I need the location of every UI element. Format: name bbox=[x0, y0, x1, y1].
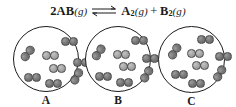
reaction-vessel-b bbox=[85, 26, 151, 92]
molecule bbox=[45, 79, 62, 88]
atom-sphere bbox=[53, 79, 62, 88]
atom-sphere bbox=[223, 52, 232, 61]
atom-sphere bbox=[124, 78, 133, 87]
molecule bbox=[24, 73, 41, 82]
atom-sphere bbox=[50, 51, 59, 60]
molecule bbox=[188, 79, 205, 88]
molecule bbox=[212, 64, 228, 83]
atom-sphere bbox=[196, 79, 205, 88]
molecule bbox=[192, 61, 209, 70]
molecule bbox=[95, 72, 112, 81]
equation-product2-state: (g) bbox=[173, 5, 186, 17]
atom-sphere bbox=[32, 73, 41, 82]
atom-sphere bbox=[179, 70, 188, 79]
atom-sphere bbox=[103, 72, 112, 81]
molecule bbox=[42, 51, 59, 60]
molecule bbox=[197, 35, 214, 44]
equation-product2-species: B bbox=[160, 4, 168, 19]
atom-sphere bbox=[205, 35, 214, 44]
molecule bbox=[131, 36, 148, 45]
equation-reactant-species: AB bbox=[57, 4, 75, 19]
atom-sphere bbox=[139, 36, 148, 45]
molecule bbox=[187, 49, 204, 58]
reaction-vessel-a bbox=[13, 26, 79, 92]
flask-label-c: C bbox=[182, 95, 202, 107]
flask-label-b: B bbox=[108, 94, 128, 106]
molecule bbox=[142, 54, 159, 63]
molecule bbox=[19, 44, 36, 63]
molecule bbox=[171, 70, 188, 79]
atom-sphere bbox=[121, 50, 130, 59]
molecule bbox=[61, 37, 78, 46]
equation-reactant-state: (g) bbox=[74, 5, 87, 17]
equation-product2-subscript: 2 bbox=[168, 9, 172, 18]
equation-product1-species: A bbox=[121, 4, 130, 19]
molecule bbox=[116, 78, 133, 87]
molecule bbox=[69, 67, 84, 86]
equation-product1-state: (g) bbox=[135, 5, 148, 17]
equilibrium-arrow-icon bbox=[91, 5, 117, 17]
atom-sphere bbox=[195, 49, 204, 58]
equation-plus-sign: + bbox=[148, 4, 160, 19]
atom-sphere bbox=[69, 37, 78, 46]
molecule bbox=[166, 42, 182, 61]
molecule bbox=[215, 52, 232, 61]
reaction-diagram-figure: 2AB(g) A2(g) + B2(g) ABC bbox=[0, 0, 236, 107]
molecule bbox=[119, 62, 136, 71]
atom-sphere bbox=[127, 62, 136, 71]
molecule bbox=[90, 43, 107, 62]
equation-product1-subscript: 2 bbox=[130, 9, 134, 18]
flask-label-a: A bbox=[36, 94, 56, 106]
atom-sphere bbox=[200, 61, 209, 70]
molecule bbox=[139, 65, 155, 84]
chemical-equation: 2AB(g) A2(g) + B2(g) bbox=[0, 1, 236, 21]
molecule bbox=[49, 64, 66, 73]
atom-sphere bbox=[57, 64, 66, 73]
molecule bbox=[113, 50, 130, 59]
reaction-vessel-c bbox=[158, 26, 225, 93]
